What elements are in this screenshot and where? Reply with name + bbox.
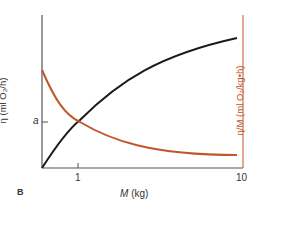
y-tick-label-a: a xyxy=(33,115,39,126)
x-tick-label-1: 1 xyxy=(75,172,81,183)
eta-per-mass-curve xyxy=(42,70,237,155)
eta-curve xyxy=(42,38,237,168)
left-y-axis-label: η (ml O₂/h) xyxy=(0,78,8,124)
x-axis-label: M (kg) xyxy=(120,188,148,199)
panel-label: B xyxy=(17,187,24,197)
right-y-axis-label: η/M (ml O₂/kg•h) xyxy=(234,66,245,136)
x-tick-label-10: 10 xyxy=(236,172,247,183)
